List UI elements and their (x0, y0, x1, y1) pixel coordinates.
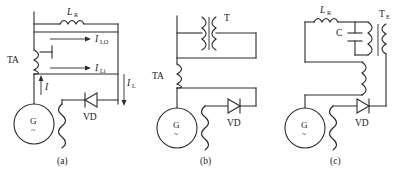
panel-a-ili-label: I (94, 63, 99, 73)
panel-b: T TA G ~ VD (b) (152, 13, 256, 167)
panel-a-inductor-coil (60, 21, 84, 25)
panel-c-generator-mark: ~ (302, 130, 307, 139)
panel-c: L R C T E G (285, 5, 390, 167)
panel-a-ili-label-sub: Li (100, 67, 106, 74)
panel-a-il-label-sub: L (132, 82, 136, 89)
panel-a-generator-mark: ~ (31, 126, 36, 135)
panel-a-caption: (a) (57, 156, 68, 167)
panel-a-generator-label: G (30, 116, 37, 126)
panel-b-generator-mark: ~ (174, 130, 179, 139)
panel-a-ili-arrow-head (85, 66, 91, 71)
panel-b-diode-label: VD (227, 118, 241, 128)
panel-a-i-arrow-head (39, 75, 44, 81)
panel-b-generator-label: G (173, 120, 180, 130)
panel-c-lower-winding (362, 62, 366, 95)
panel-a-ta-coil (34, 50, 39, 74)
panel-b-transformer-primary (202, 17, 206, 50)
panel-a: L R I LO TA I Li I (7, 7, 136, 167)
panel-c-load-winding (330, 106, 337, 150)
figure-root: L R I LO TA I Li I (0, 0, 404, 173)
panel-a-ilo-label-sub: LO (100, 38, 109, 45)
panel-b-transformer-label: T (224, 13, 230, 23)
panel-a-ta-label: TA (7, 55, 19, 65)
circuit-diagram-canvas: L R I LO TA I Li I (0, 0, 404, 173)
panel-a-diode-triangle (85, 93, 97, 107)
panel-c-inductor-label: L (319, 5, 325, 15)
panel-a-il-label: I (126, 78, 131, 88)
panel-c-diode-triangle (357, 99, 369, 113)
panel-c-inductor-label-sub: R (327, 9, 332, 16)
panel-a-load-winding (59, 104, 66, 148)
panel-a-inductor-label: L (66, 7, 72, 17)
panel-b-load-winding (202, 106, 209, 150)
panel-b-ta-label: TA (152, 71, 164, 81)
panel-c-caption: (c) (330, 156, 341, 167)
panel-b-caption: (b) (200, 156, 211, 167)
panel-c-capacitor-label: C (336, 28, 342, 38)
panel-a-ilo-arrow-head (85, 37, 91, 42)
panel-b-diode-triangle (228, 99, 240, 113)
panel-c-diode-label: VD (355, 118, 369, 128)
panel-b-transformer-secondary (212, 17, 216, 50)
panel-a-il-arrow-head (122, 100, 127, 106)
panel-c-transformer-label: T (379, 9, 385, 19)
panel-b-ta-coil (177, 64, 182, 88)
panel-a-ilo-label: I (94, 34, 99, 44)
panel-c-generator-label: G (301, 120, 308, 130)
panel-c-tank-winding (368, 22, 372, 55)
panel-a-diode-label: VD (83, 112, 97, 122)
panel-a-i-label: I (44, 82, 49, 92)
panel-c-transformer-label-sub: E (386, 13, 390, 20)
panel-c-inductor-coil (314, 19, 338, 23)
panel-c-transformer-secondary (382, 24, 386, 54)
panel-a-inductor-label-sub: R (74, 11, 79, 18)
